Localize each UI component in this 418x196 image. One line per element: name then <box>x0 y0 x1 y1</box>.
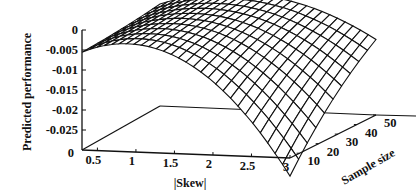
z-tick-label: -0.005 <box>46 43 78 57</box>
y-tick-label: 10 <box>308 154 321 168</box>
x-axis-line <box>82 150 290 158</box>
floor-left-edge <box>82 106 160 150</box>
x-axis-label: |Skew| <box>174 176 207 190</box>
y-tick-label: 50 <box>384 116 397 130</box>
x-axis: 0.511.522.53 <box>82 148 290 174</box>
y-tick-label: 30 <box>346 135 359 149</box>
z-axis-label: Predicted performance <box>20 32 34 151</box>
z-tick-label: 0 <box>72 23 78 37</box>
x-tick-label: 2.5 <box>240 159 256 173</box>
y-axis-label: Sample size <box>339 145 398 187</box>
z-floor-label: 0 <box>68 146 74 160</box>
z-tick-label: -0.015 <box>46 83 78 97</box>
z-tick-label: -0.025 <box>46 123 78 137</box>
z-tick-label: -0.02 <box>52 103 78 117</box>
x-tick-label: 2 <box>206 157 212 171</box>
x-tick-label: 1.5 <box>163 156 179 170</box>
x-tick-label: 3 <box>283 160 289 174</box>
surface-plot: 0-0.005-0.01-0.015-0.02-0.0250 0.511.522… <box>0 0 418 196</box>
y-tick-label: 20 <box>327 145 340 159</box>
z-axis: 0-0.005-0.01-0.015-0.02-0.0250 <box>46 23 86 160</box>
x-tick-label: 1 <box>129 154 135 168</box>
x-tick-label: 0.5 <box>86 153 102 167</box>
z-tick-label: -0.01 <box>52 63 78 77</box>
y-tick-label: 40 <box>365 126 378 140</box>
